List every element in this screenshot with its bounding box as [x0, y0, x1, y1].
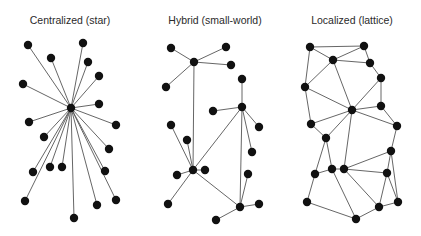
graph-node	[248, 148, 256, 156]
graph-node	[377, 102, 385, 110]
graph-node	[328, 165, 336, 173]
graph-node	[352, 215, 360, 223]
graph-node	[383, 169, 391, 177]
graph-node	[244, 170, 252, 178]
graph-node	[21, 197, 29, 205]
graph-node	[236, 203, 244, 211]
graph-node	[329, 56, 337, 64]
graph-node	[95, 100, 103, 108]
graph-node	[105, 145, 113, 153]
graph-node	[238, 75, 246, 83]
graph-node	[301, 83, 309, 91]
graph-node	[306, 43, 314, 51]
graph-node	[303, 198, 311, 206]
graph-node	[377, 74, 385, 82]
graph-node	[387, 147, 395, 155]
graph-node	[322, 134, 330, 142]
graph-node	[101, 167, 109, 175]
graph-node	[112, 121, 120, 129]
graph-node	[112, 196, 120, 204]
graph-node	[29, 168, 37, 176]
graph-node	[348, 106, 356, 114]
graph-node	[255, 123, 263, 131]
panel-title-lattice: Localized (lattice)	[311, 14, 393, 26]
graph-node	[70, 214, 78, 222]
graph-node	[307, 120, 315, 128]
network-topology-diagram: Centralized (star) Hybrid (small-world) …	[0, 0, 421, 236]
graph-node	[190, 58, 198, 66]
graph-node	[375, 203, 383, 211]
graph-node	[201, 166, 209, 174]
graph-node	[394, 198, 402, 206]
graph-node	[164, 200, 172, 208]
graph-node	[46, 163, 54, 171]
graph-node	[93, 201, 101, 209]
panel-title-hybrid: Hybrid (small-world)	[168, 14, 261, 26]
graph-node	[360, 42, 368, 50]
graph-node	[366, 59, 374, 67]
graph-node	[189, 166, 197, 174]
graph-node	[173, 171, 181, 179]
graph-node	[84, 58, 92, 66]
graph-node	[58, 163, 66, 171]
graph-node	[162, 83, 170, 91]
graph-node	[340, 165, 348, 173]
graph-node	[222, 43, 230, 51]
panel-title-star: Centralized (star)	[30, 14, 111, 26]
graph-node	[227, 61, 235, 69]
graph-node	[25, 118, 33, 126]
graph-node	[19, 80, 27, 88]
graph-node	[24, 41, 32, 49]
graph-node	[311, 170, 319, 178]
graph-node	[393, 122, 401, 130]
graph-node	[167, 121, 175, 129]
background	[0, 0, 421, 236]
graph-node	[47, 54, 55, 62]
graph-node	[40, 133, 48, 141]
graph-node	[95, 72, 103, 80]
graph-node	[67, 104, 75, 112]
graph-node	[183, 136, 191, 144]
graph-node	[238, 103, 246, 111]
graph-node	[209, 107, 217, 115]
graph-node	[79, 39, 87, 47]
graph-node	[212, 216, 220, 224]
graph-node	[255, 200, 263, 208]
graph-node	[167, 44, 175, 52]
